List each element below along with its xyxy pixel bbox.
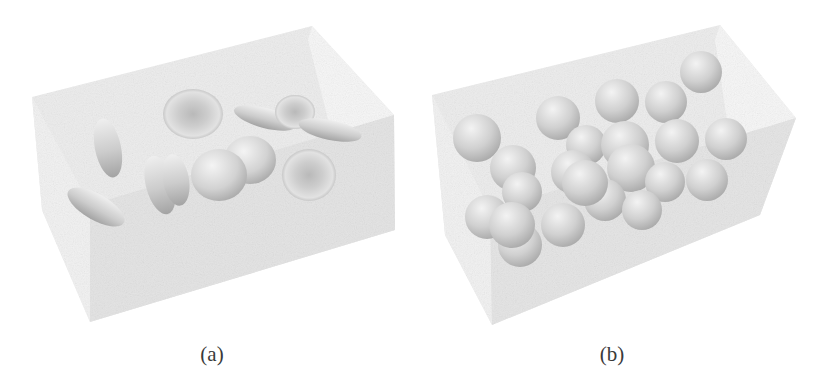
- panel-a-rbc-render: (a): [0, 0, 410, 392]
- caption-b: (b): [582, 342, 642, 367]
- sphere-box-render: [410, 0, 820, 392]
- panel-b-sphere-render: (b): [410, 0, 820, 392]
- caption-a: (a): [182, 342, 242, 367]
- rbc-box-render: [0, 0, 410, 392]
